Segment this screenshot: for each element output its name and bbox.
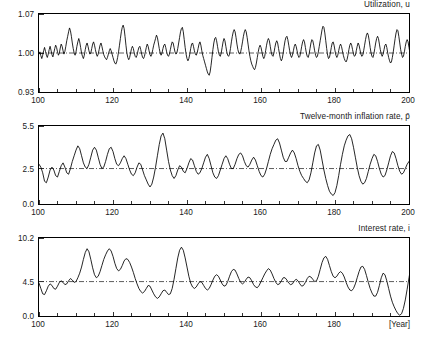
series-svg-interest-rate xyxy=(39,238,409,316)
y-tick-label: 10.2 xyxy=(18,234,34,243)
series-svg-utilization xyxy=(39,14,409,92)
panel-interest-rate: Interest rate, i 0.04.510.2 100120140160… xyxy=(0,224,421,337)
panel-title-utilization: Utilization, u xyxy=(364,0,410,9)
x-tick-label: 200 xyxy=(401,208,415,217)
data-series-line xyxy=(39,25,409,75)
x-tick-label: 120 xyxy=(105,320,119,329)
x-tick-label: 200 xyxy=(401,96,415,105)
x-tick-label: 100 xyxy=(31,320,45,329)
x-tick-label: 140 xyxy=(179,320,193,329)
panel-title-inflation-rate: Twelve-month inflation rate, p̄ xyxy=(300,112,410,121)
series-svg-inflation-rate xyxy=(39,126,409,204)
y-tick-label: 1.00 xyxy=(18,49,34,58)
y-tick-label: 4.5 xyxy=(23,277,34,286)
plot-area-interest-rate xyxy=(38,237,410,317)
x-tick-label: 140 xyxy=(179,208,193,217)
data-series-line xyxy=(39,245,409,315)
y-axis-inflation-rate: 0.02.55.5 xyxy=(0,125,34,205)
x-axis-caption: [Year] xyxy=(389,320,410,329)
x-tick-label: 100 xyxy=(31,96,45,105)
data-series-line xyxy=(39,133,409,195)
economic-time-series-figure: Utilization, u 0.931.001.07 100120140160… xyxy=(0,0,421,337)
x-axis-inflation-rate: 100120140160180200 xyxy=(38,207,410,221)
x-axis-interest-rate: 100120140160180[Year] xyxy=(38,319,410,333)
x-tick-label: 120 xyxy=(105,208,119,217)
y-axis-utilization: 0.931.001.07 xyxy=(0,13,34,93)
y-tick-label: 2.5 xyxy=(23,164,34,173)
x-tick-label: 160 xyxy=(253,320,267,329)
x-tick-label: 120 xyxy=(105,96,119,105)
y-axis-interest-rate: 0.04.510.2 xyxy=(0,237,34,317)
x-tick-label: 160 xyxy=(253,208,267,217)
x-tick-label: 160 xyxy=(253,96,267,105)
panel-utilization: Utilization, u 0.931.001.07 100120140160… xyxy=(0,0,421,112)
plot-area-utilization xyxy=(38,13,410,93)
x-tick-label: 180 xyxy=(327,96,341,105)
y-tick-label: 5.5 xyxy=(23,122,34,131)
x-tick-label: 180 xyxy=(327,320,341,329)
y-tick-label: 1.07 xyxy=(18,10,34,19)
panel-inflation-rate: Twelve-month inflation rate, p̄ 0.02.55.… xyxy=(0,112,421,224)
x-axis-utilization: 100120140160180200 xyxy=(38,95,410,109)
panel-title-interest-rate: Interest rate, i xyxy=(358,224,410,233)
x-tick-label: 100 xyxy=(31,208,45,217)
x-tick-label: 140 xyxy=(179,96,193,105)
plot-area-inflation-rate xyxy=(38,125,410,205)
x-tick-label: 180 xyxy=(327,208,341,217)
